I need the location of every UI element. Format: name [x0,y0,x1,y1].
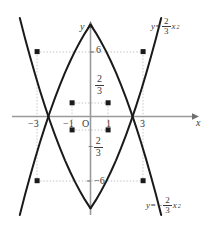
equation-exponent: 2 [178,203,181,209]
minus-sign-equation: − [157,201,162,210]
x-tick-label-neg1: −1 [63,119,74,129]
y-tick-label-6: 6 [96,45,101,55]
x-tick-label-pos1: 1 [106,119,111,129]
fraction-denominator: 3 [163,206,172,215]
marker-neg3-neg6 [35,178,40,183]
origin-label: O [82,119,89,129]
curve-positive-right [91,25,162,215]
fraction-two-thirds-eq: 2 3 [162,17,171,37]
figure-container: y x O −3 −1 1 3 6 2 3 − 2 3 −6 y= 2 3 x2… [0,0,209,225]
fraction-two-thirds-eq: 2 3 [163,196,172,216]
equation-variable: x [172,22,176,31]
x-tick-label-neg3: −3 [28,119,39,129]
marker-neg1-twothirds [70,100,75,105]
curve-negative-left [20,18,91,208]
y-tick-label-neg-twothirds: − 2 3 [88,136,103,158]
marker-neg3-6 [35,49,40,54]
fraction-numerator: 2 [94,136,103,148]
x-axis-label: x [196,118,200,128]
fraction-neg-two-thirds: 2 3 [94,136,103,158]
x-tick-label-pos3: 3 [140,119,145,129]
equation-exponent: 2 [177,24,180,30]
equation-lhs: y= [146,201,156,210]
y-tick-label-neg6: −6 [94,176,105,186]
fraction-denominator: 3 [162,27,171,36]
fraction-denominator: 3 [94,148,103,159]
marker-3-neg6 [141,178,146,183]
marker-1-twothirds [106,100,111,105]
y-axis-label: y [80,22,84,32]
equation-lhs: y= [151,22,161,31]
equation-variable: x [173,201,177,210]
fraction-denominator: 3 [95,86,104,97]
marker-3-6 [141,49,146,54]
fraction-two-thirds: 2 3 [95,74,104,96]
equation-label-negative: y= − 2 3 x2 [146,196,181,216]
y-tick-label-twothirds: 2 3 [95,74,104,96]
fraction-numerator: 2 [95,74,104,86]
equation-label-positive: y= 2 3 x2 [151,17,180,37]
